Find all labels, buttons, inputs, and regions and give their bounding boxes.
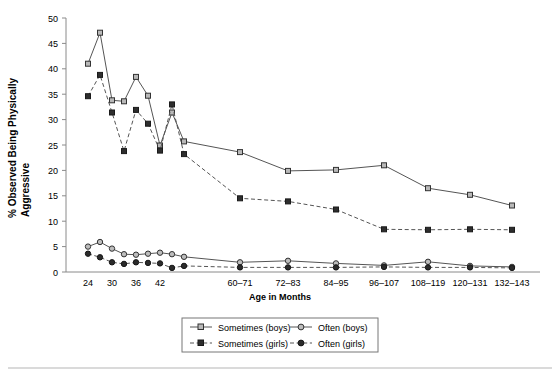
- y-tick-label: 25: [48, 141, 58, 151]
- data-point: [157, 261, 162, 266]
- data-point: [122, 99, 127, 104]
- data-point: [133, 260, 138, 265]
- data-point: [182, 139, 187, 144]
- data-point: [381, 264, 386, 269]
- legend-label: Often (boys): [318, 323, 368, 333]
- y-tick-label: 35: [48, 90, 58, 100]
- data-point: [145, 260, 150, 265]
- x-tick-label: 30: [107, 278, 117, 288]
- data-point: [467, 265, 472, 270]
- data-point: [334, 167, 339, 172]
- data-point: [285, 265, 290, 270]
- series-line: [88, 242, 512, 267]
- data-point: [181, 254, 186, 259]
- open-square-icon: [198, 324, 204, 330]
- data-point: [134, 74, 139, 79]
- data-point: [109, 246, 114, 251]
- x-tick-label: 132–143: [494, 278, 529, 288]
- data-point: [468, 227, 473, 232]
- y-tick-label: 10: [48, 217, 58, 227]
- data-point: [122, 149, 127, 154]
- aggression-line-chart: 0 5 10 15 20 25 30 35 40 45 50 % Observe…: [0, 0, 560, 378]
- data-point: [121, 261, 126, 266]
- x-axis-title: Age in Months: [249, 292, 311, 302]
- data-point: [426, 227, 431, 232]
- open-circle-icon: [298, 324, 304, 330]
- y-tick-label: 40: [48, 64, 58, 74]
- data-point: [97, 255, 102, 260]
- data-point: [425, 265, 430, 270]
- data-point: [133, 252, 138, 257]
- data-point: [86, 61, 91, 66]
- y-tick-label: 0: [53, 268, 58, 278]
- x-tick-label: 24: [83, 278, 93, 288]
- y-axis-title-line2: Aggressive: [20, 163, 31, 217]
- filled-circle-icon: [298, 340, 304, 346]
- y-tick-label: 15: [48, 191, 58, 201]
- data-point: [146, 121, 151, 126]
- axis-lines: [66, 18, 540, 272]
- data-point: [382, 227, 387, 232]
- data-point: [238, 150, 243, 155]
- x-tick-group: 2430364260–7172–8384–9596–107108–119120–…: [83, 278, 530, 288]
- legend-label: Sometimes (boys): [218, 323, 291, 333]
- data-point: [334, 207, 339, 212]
- legend-label: Often (girls): [318, 339, 365, 349]
- data-point: [86, 94, 91, 99]
- x-tick-label: 72–83: [275, 278, 300, 288]
- x-tick-label: 96–107: [369, 278, 399, 288]
- data-point: [237, 260, 242, 265]
- data-point: [169, 265, 174, 270]
- data-point: [425, 259, 430, 264]
- data-point: [85, 244, 90, 249]
- data-point: [158, 148, 163, 153]
- data-point: [286, 199, 291, 204]
- data-point: [238, 196, 243, 201]
- data-point: [134, 107, 139, 112]
- data-point: [286, 168, 291, 173]
- data-point: [98, 30, 103, 35]
- data-point: [170, 102, 175, 107]
- series-line: [88, 33, 512, 206]
- data-point: [157, 250, 162, 255]
- data-point: [110, 110, 115, 115]
- y-axis-title: % Observed Being Physically Aggressive: [7, 78, 31, 218]
- x-tick-label: 84–95: [323, 278, 348, 288]
- data-point: [110, 98, 115, 103]
- x-tick-label: 42: [155, 278, 165, 288]
- filled-square-icon: [198, 340, 204, 346]
- x-tick-label: 36: [131, 278, 141, 288]
- y-tick-label: 45: [48, 39, 58, 49]
- data-point: [468, 192, 473, 197]
- data-point: [181, 263, 186, 268]
- data-point: [182, 152, 187, 157]
- data-point: [333, 265, 338, 270]
- data-point: [169, 252, 174, 257]
- data-point: [382, 163, 387, 168]
- plot-series-group: [85, 30, 514, 270]
- series-sometimes-boys: [86, 30, 515, 208]
- data-point: [109, 260, 114, 265]
- data-point: [145, 251, 150, 256]
- y-tick-label: 5: [53, 242, 58, 252]
- y-axis-title-line1: % Observed Being Physically: [7, 78, 18, 218]
- data-point: [146, 93, 151, 98]
- y-tick-group: 0 5 10 15 20 25 30 35 40 45 50: [48, 14, 66, 278]
- data-point: [85, 251, 90, 256]
- legend-label: Sometimes (girls): [218, 339, 288, 349]
- data-point: [510, 203, 515, 208]
- series-line: [88, 254, 512, 268]
- y-tick-label: 30: [48, 115, 58, 125]
- data-point: [97, 239, 102, 244]
- data-point: [426, 186, 431, 191]
- data-point: [98, 72, 103, 77]
- data-point: [121, 252, 126, 257]
- series-line: [88, 75, 512, 230]
- y-tick-label: 20: [48, 166, 58, 176]
- y-tick-label: 50: [48, 14, 58, 24]
- x-tick-label: 120–131: [452, 278, 487, 288]
- legend: Sometimes (boys) Often (boys) Sometimes …: [182, 318, 378, 352]
- data-point: [509, 265, 514, 270]
- data-point: [237, 265, 242, 270]
- x-tick-label: 108–119: [411, 278, 445, 288]
